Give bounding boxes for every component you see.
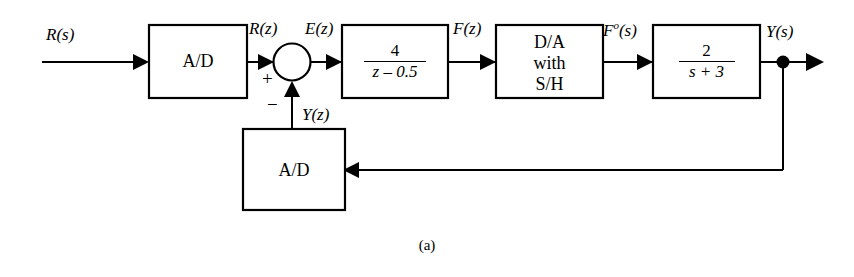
label-after-input-ad: R(z) [249,20,277,37]
label-error-signal: E(z) [305,20,333,37]
block-da-sh-line1: D/A [496,32,603,53]
block-da-sh-label: D/A with S/H [496,32,603,96]
label-after-da: Fo(s) [603,20,637,39]
block-feedback-ad-label: A/D [243,160,345,181]
summing-plus-sign: + [262,69,273,88]
figure-caption: (a) [0,237,854,254]
block-diagram-figure: R(s) R(z) E(z) F(z) Fo(s) Y(s) Y(z) + − … [0,0,854,277]
plant-numerator: 2 [653,42,760,61]
summing-minus-sign: − [267,95,278,114]
plant-denominator: s + 3 [653,62,760,81]
label-output-signal: Y(s) [766,23,793,40]
block-controller-transfer-function: 4 z – 0.5 [342,42,448,81]
label-feedback-signal: Y(z) [302,106,329,123]
arrowhead-da-input [480,54,496,70]
block-input-ad-label: A/D [149,51,247,72]
arrowhead-output [806,53,824,71]
controller-numerator: 4 [342,42,448,61]
label-after-controller: F(z) [453,20,481,37]
arrowhead-controller-input [326,54,342,70]
label-after-da-base: F [603,21,613,40]
label-after-da-arg: (s) [619,21,637,40]
block-plant-transfer-function: 2 s + 3 [653,42,760,81]
block-da-sh-line2: with [496,53,603,74]
block-da-sh-line3: S/H [496,74,603,95]
arrowhead-sum-feedback [284,81,300,97]
summing-junction [274,44,311,81]
arrowhead-plant-input [637,54,653,70]
controller-denominator: z – 0.5 [342,62,448,81]
arrowhead-input-ad [133,54,149,70]
label-input-signal: R(s) [46,26,74,43]
